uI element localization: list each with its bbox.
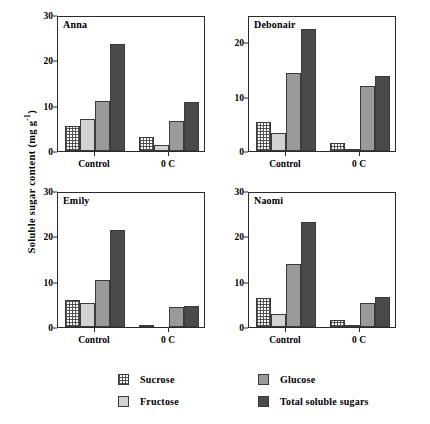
x-tick-mark (168, 152, 169, 156)
y-tick-mark (244, 97, 248, 98)
x-tick-label-anna-control: Control (78, 159, 110, 169)
panel-title-debonair: Debonair (254, 19, 296, 30)
legend-item-total[interactable]: Total soluble sugars (258, 396, 369, 407)
panel-debonair: Debonair01020Control0 C (248, 16, 396, 152)
legend-label-sucrose: Sucrose (140, 374, 175, 385)
x-tick-label-naomi-0c: 0 C (352, 335, 366, 345)
y-tick-mark (244, 237, 248, 238)
legend-item-glucose[interactable]: Glucose (258, 374, 315, 385)
bar-debonair-control-fructose (271, 133, 286, 151)
y-tick-label-naomi-0: 0 (226, 323, 244, 333)
y-tick-label-emily-0: 0 (35, 323, 53, 333)
bar-naomi-0c-sucrose (330, 320, 345, 327)
legend-swatch-sucrose (118, 374, 129, 385)
y-tick-mark (53, 106, 57, 107)
x-tick-mark (168, 328, 169, 332)
y-tick-mark (53, 192, 57, 193)
y-tick-mark (53, 328, 57, 329)
bar-emily-control-glucose (95, 280, 110, 327)
legend-label-total: Total soluble sugars (280, 396, 369, 407)
plot-area-debonair (248, 16, 396, 152)
y-tick-label-debonair-0: 0 (226, 147, 244, 157)
bar-debonair-0c-total (375, 76, 390, 151)
bar-emily-control-fructose (80, 303, 95, 327)
panel-title-anna: Anna (63, 19, 87, 30)
bar-debonair-control-total (301, 29, 316, 151)
legend-item-sucrose[interactable]: Sucrose (118, 374, 175, 385)
legend-label-glucose: Glucose (280, 374, 315, 385)
x-tick-mark (359, 152, 360, 156)
panel-emily: Emily0102030Control0 C (57, 192, 205, 328)
y-tick-label-debonair-20: 20 (226, 38, 244, 48)
x-tick-mark (94, 328, 95, 332)
bar-emily-control-total (110, 230, 125, 327)
bar-anna-0c-total (184, 102, 199, 151)
bar-emily-0c-glucose (169, 307, 184, 327)
bar-naomi-control-glucose (286, 264, 301, 327)
y-tick-mark (244, 152, 248, 153)
legend-swatch-fructose (118, 396, 129, 407)
x-tick-label-naomi-control: Control (269, 335, 301, 345)
bar-anna-control-glucose (95, 101, 110, 151)
bar-debonair-control-glucose (286, 73, 301, 151)
bar-debonair-0c-glucose (360, 86, 375, 151)
bar-debonair-control-sucrose (256, 122, 271, 151)
bar-emily-0c-total (184, 306, 199, 327)
panel-title-emily: Emily (63, 195, 90, 206)
panel-naomi: Naomi0102030Control0 C (248, 192, 396, 328)
bar-anna-0c-glucose (169, 121, 184, 151)
y-tick-mark (53, 282, 57, 283)
bar-naomi-0c-fructose (345, 325, 360, 327)
y-tick-mark (244, 43, 248, 44)
x-tick-mark (285, 328, 286, 332)
x-tick-label-emily-control: Control (78, 335, 110, 345)
bar-debonair-0c-sucrose (330, 143, 345, 151)
y-tick-mark (53, 237, 57, 238)
figure-soluble-sugar-content: Soluble sugar content (mg g-1) Anna01020… (0, 0, 430, 424)
y-tick-label-anna-20: 20 (35, 56, 53, 66)
bar-anna-0c-fructose (154, 145, 169, 151)
x-tick-mark (94, 152, 95, 156)
y-axis-title-exponent: -1 (23, 114, 32, 121)
x-tick-mark (359, 328, 360, 332)
bar-naomi-0c-total (375, 297, 390, 327)
y-axis-title: Soluble sugar content (mg g-1) (23, 57, 37, 307)
legend-label-fructose: Fructose (140, 396, 179, 407)
bar-naomi-control-total (301, 222, 316, 327)
bar-anna-control-total (110, 44, 125, 151)
panel-anna: Anna0102030Control0 C (57, 16, 205, 152)
plot-area-anna (57, 16, 205, 152)
y-tick-label-anna-0: 0 (35, 147, 53, 157)
legend-swatch-total (258, 396, 269, 407)
bar-anna-control-sucrose (65, 126, 80, 151)
bar-naomi-control-sucrose (256, 298, 271, 327)
legend-swatch-glucose (258, 374, 269, 385)
y-tick-label-emily-20: 20 (35, 232, 53, 242)
bar-naomi-0c-glucose (360, 303, 375, 327)
bar-debonair-0c-fructose (345, 149, 360, 151)
chart-legend: SucroseGlucoseFructoseTotal soluble suga… (0, 368, 430, 424)
y-tick-mark (53, 16, 57, 17)
y-tick-label-naomi-20: 20 (226, 232, 244, 242)
bar-anna-control-fructose (80, 119, 95, 151)
bar-emily-control-sucrose (65, 300, 80, 327)
x-tick-label-emily-0c: 0 C (161, 335, 175, 345)
x-tick-label-debonair-control: Control (269, 159, 301, 169)
panel-title-naomi: Naomi (254, 195, 283, 206)
y-tick-label-anna-30: 30 (35, 11, 53, 21)
y-tick-label-naomi-10: 10 (226, 278, 244, 288)
x-tick-mark (285, 152, 286, 156)
y-tick-label-anna-10: 10 (35, 102, 53, 112)
y-tick-mark (244, 282, 248, 283)
y-tick-mark (244, 328, 248, 329)
y-tick-label-naomi-30: 30 (226, 187, 244, 197)
bar-naomi-control-fructose (271, 314, 286, 327)
bar-anna-0c-sucrose (139, 137, 154, 151)
y-tick-mark (53, 152, 57, 153)
x-tick-label-debonair-0c: 0 C (352, 159, 366, 169)
plot-area-emily (57, 192, 205, 328)
y-tick-label-emily-30: 30 (35, 187, 53, 197)
bar-emily-0c-sucrose (139, 325, 154, 327)
x-tick-label-anna-0c: 0 C (161, 159, 175, 169)
legend-item-fructose[interactable]: Fructose (118, 396, 179, 407)
